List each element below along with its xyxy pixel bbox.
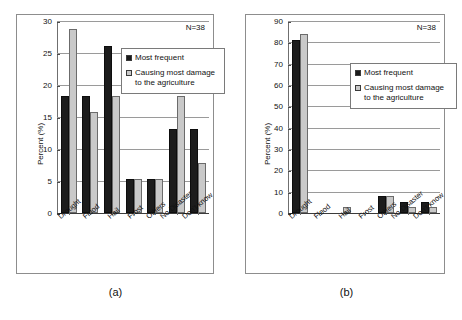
bar — [61, 96, 69, 213]
y-tick-label: 70 — [274, 61, 288, 69]
legend-item: Causing most damage to the agriculture — [126, 68, 219, 88]
y-tick-label: 10 — [274, 189, 288, 197]
bar-group — [397, 22, 419, 213]
legend-a: Most frequent Causing most damage to the… — [121, 48, 225, 94]
bar — [82, 96, 90, 213]
bar-group — [418, 22, 440, 213]
y-axis-label-a: Percent (%) — [36, 123, 45, 165]
legend-b: Most frequent Causing most damage to the… — [350, 63, 457, 109]
bar-group — [354, 22, 376, 213]
x-label-cell: Frost — [354, 213, 376, 255]
y-tick-label: 5 — [48, 178, 57, 186]
legend-swatch-light-icon — [126, 70, 132, 76]
x-label-cell: Drought — [58, 213, 80, 255]
bar-group — [58, 22, 80, 213]
bar-group — [289, 22, 311, 213]
x-label-cell: Don't know — [418, 213, 440, 255]
bar — [90, 112, 98, 213]
x-label-cell: Drought — [289, 213, 311, 255]
legend-swatch-dark-icon — [126, 55, 132, 61]
bar — [104, 46, 112, 213]
legend-item: Most frequent — [355, 68, 451, 78]
legend-label: Causing most damage to the agriculture — [364, 83, 451, 103]
y-tick-label: 80 — [274, 39, 288, 47]
legend-swatch-light-icon — [355, 85, 361, 91]
plot-area-b: 0102030405060708090 — [288, 22, 440, 214]
y-tick-label: 20 — [43, 82, 57, 90]
bar-group — [332, 22, 354, 213]
bar-group — [80, 22, 102, 213]
legend-label: Most frequent — [364, 68, 413, 78]
x-label-cell: Hail — [332, 213, 354, 255]
y-tick-label: 60 — [274, 82, 288, 90]
bar-group — [101, 22, 123, 213]
bar-group — [311, 22, 333, 213]
bar — [300, 34, 308, 213]
x-tick-labels-a: DroughtFloodHailFrostOthersNo DisasterDo… — [58, 213, 209, 255]
y-tick-label: 30 — [274, 146, 288, 154]
y-tick-label: 90 — [274, 18, 288, 26]
chart-panel-a: N=38 Percent (%) 051015202530 DroughtFlo… — [0, 0, 231, 320]
y-tick-label: 15 — [43, 114, 57, 122]
x-tick-labels-b: DroughtFloodHailFrostOthersNo DisasterDo… — [289, 213, 440, 255]
chart-panel-b: N=38 Percent (%) 0102030405060708090 Dro… — [231, 0, 462, 320]
bar-group — [375, 22, 397, 213]
legend-item: Most frequent — [126, 53, 219, 63]
plot-frame-b: N=38 Percent (%) 0102030405060708090 Dro… — [245, 14, 445, 274]
y-tick-label: 10 — [43, 146, 57, 154]
plot-frame-a: N=38 Percent (%) 051015202530 DroughtFlo… — [16, 14, 214, 274]
legend-item: Causing most damage to the agriculture — [355, 83, 451, 103]
y-tick-label: 50 — [274, 103, 288, 111]
bar — [112, 96, 120, 213]
x-label-cell: Don't know — [187, 213, 209, 255]
legend-swatch-dark-icon — [355, 70, 361, 76]
x-label-cell: Flood — [311, 213, 333, 255]
y-tick-label: 25 — [43, 50, 57, 58]
bar-series-b — [289, 22, 440, 213]
x-label-cell: Hail — [101, 213, 123, 255]
y-axis-label-b: Percent (%) — [263, 123, 272, 165]
x-label-cell: Flood — [80, 213, 102, 255]
legend-label: Most frequent — [135, 53, 184, 63]
panel-caption-a: (a) — [0, 286, 231, 298]
y-tick-label: 40 — [274, 125, 288, 133]
legend-label: Causing most damage to the agriculture — [135, 68, 219, 88]
x-label-cell: Frost — [123, 213, 145, 255]
panel-caption-b: (b) — [231, 286, 462, 298]
figure-container: N=38 Percent (%) 051015202530 DroughtFlo… — [0, 0, 462, 320]
y-tick-label: 20 — [274, 167, 288, 175]
y-tick-label: 30 — [43, 18, 57, 26]
bar — [69, 29, 77, 213]
bar — [292, 40, 300, 213]
